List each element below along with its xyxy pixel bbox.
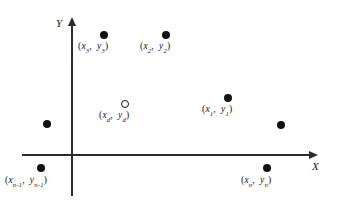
data-point-pd xyxy=(121,100,129,108)
data-point-pn xyxy=(263,164,271,172)
data-point-label-pd: (xd, yd) xyxy=(99,111,129,121)
scatter-diagram: X Y (x3, y3) (x2, y2) (xd, yd) (x1, y1) … xyxy=(0,0,337,209)
data-point-p2 xyxy=(162,31,170,39)
data-point-left-unlabeled xyxy=(43,120,51,128)
x-axis-line xyxy=(22,154,310,155)
data-point-p1 xyxy=(224,94,232,102)
data-point-pn-1 xyxy=(37,164,45,172)
data-point-label-p3: (x3, y3) xyxy=(78,42,108,52)
x-axis-arrowhead xyxy=(309,151,318,159)
data-point-p3 xyxy=(100,31,108,39)
data-point-right-unlabeled xyxy=(277,121,285,129)
y-axis-line xyxy=(71,26,72,196)
data-point-label-p1: (x1, y1) xyxy=(202,105,232,115)
data-point-label-pn: (xn, yn) xyxy=(241,176,271,186)
data-point-label-p2: (x2, y2) xyxy=(140,42,170,52)
x-axis-label: X xyxy=(312,161,319,172)
y-axis-label: Y xyxy=(56,18,62,29)
y-axis-arrowhead xyxy=(68,17,76,26)
data-point-label-pn-1: (xn-1, yn-1) xyxy=(5,176,47,186)
